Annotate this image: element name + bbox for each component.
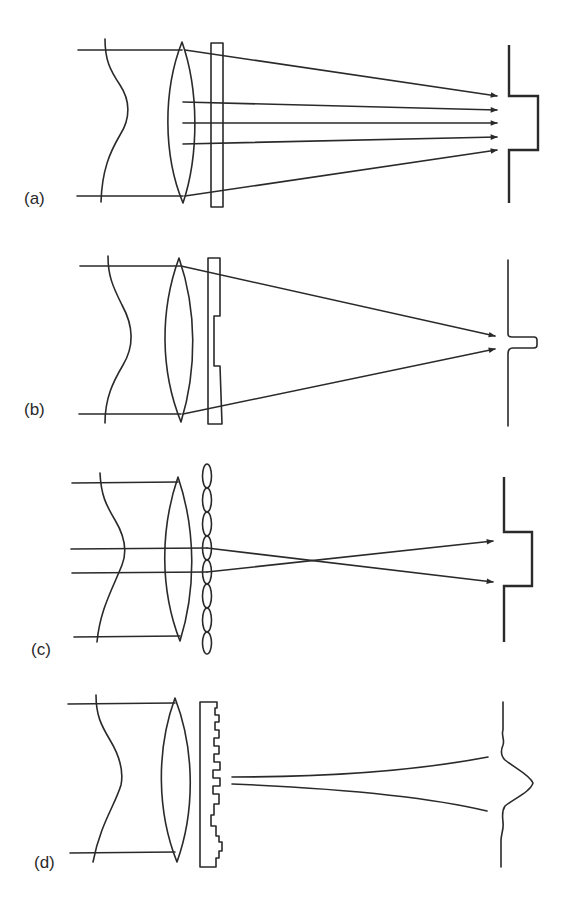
wavefront-curve bbox=[97, 473, 125, 642]
input-ray-bottom bbox=[74, 636, 180, 637]
ray-crossing-up bbox=[207, 541, 493, 572]
ray-4 bbox=[183, 137, 497, 144]
panel-label-a: (a) bbox=[24, 189, 45, 209]
flat-top-profile bbox=[509, 45, 538, 203]
input-ray-middle-lower bbox=[72, 572, 207, 573]
ray-top bbox=[185, 50, 497, 96]
wavefront-curve bbox=[101, 39, 128, 202]
ray-2 bbox=[183, 102, 497, 110]
flat-top-profile bbox=[504, 477, 532, 642]
optics-figure: (a) (b) (c) (d) bbox=[0, 0, 567, 905]
input-ray-top bbox=[68, 703, 175, 704]
narrow-peak-profile bbox=[508, 260, 537, 426]
multilevel-diffractive-element bbox=[200, 702, 222, 867]
stepped-phase-plate bbox=[208, 258, 222, 424]
focusing-lens bbox=[165, 258, 193, 422]
ray-top bbox=[181, 266, 495, 336]
panel-d bbox=[68, 695, 533, 867]
flat-plate bbox=[211, 43, 223, 207]
wavefront-curve bbox=[93, 695, 122, 862]
input-ray-bottom bbox=[70, 852, 175, 853]
wavefront-curve bbox=[105, 256, 131, 423]
ray-crossing-down bbox=[207, 548, 493, 582]
output-beam-upper bbox=[232, 757, 488, 777]
panel-c bbox=[71, 464, 532, 654]
focusing-lens bbox=[161, 698, 190, 862]
panel-label-d: (d) bbox=[34, 853, 55, 873]
sinc-peak-profile bbox=[501, 702, 533, 867]
panel-label-c: (c) bbox=[31, 640, 51, 660]
input-ray-top bbox=[72, 482, 178, 483]
panel-b bbox=[79, 256, 537, 426]
focusing-lens bbox=[165, 477, 192, 641]
lenslet-array bbox=[203, 464, 212, 654]
input-ray-middle-upper bbox=[71, 548, 207, 549]
panel-label-b: (b) bbox=[24, 400, 45, 420]
ray-bottom bbox=[183, 349, 495, 414]
panel-a bbox=[77, 39, 538, 207]
output-beam-lower bbox=[232, 784, 487, 811]
ray-bottom bbox=[185, 150, 497, 196]
